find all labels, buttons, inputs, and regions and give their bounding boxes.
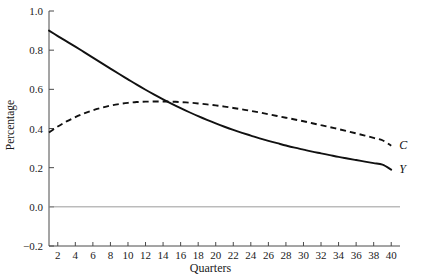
- x-tick-label: 22: [228, 250, 239, 261]
- x-tick-label: 10: [122, 250, 133, 261]
- x-tick-label: 40: [386, 250, 397, 261]
- plot-canvas: [0, 0, 421, 278]
- x-tick-label: 24: [245, 250, 256, 261]
- x-tick-label: 26: [263, 250, 274, 261]
- y-tick-label: 0.8: [2, 45, 43, 56]
- x-axis-title: Quarters: [0, 261, 421, 276]
- x-tick-label: 6: [90, 250, 96, 261]
- y-tick-label: −0.2: [2, 241, 43, 252]
- x-tick-label: 32: [316, 250, 327, 261]
- x-tick-label: 28: [280, 250, 291, 261]
- series-line-y: [49, 31, 391, 170]
- x-tick-label: 16: [175, 250, 186, 261]
- series-line-c: [49, 101, 391, 145]
- y-tick-label: 0.2: [2, 162, 43, 173]
- x-tick-label: 2: [55, 250, 61, 261]
- chart-figure: −0.20.00.20.40.60.81.0 24681012141618202…: [0, 0, 421, 278]
- series-label-c: C: [399, 138, 407, 153]
- x-tick-label: 20: [210, 250, 221, 261]
- x-tick-label: 34: [333, 250, 344, 261]
- x-tick-label: 18: [193, 250, 204, 261]
- x-tick-label: 36: [351, 250, 362, 261]
- x-tick-label: 4: [73, 250, 79, 261]
- x-tick-label: 30: [298, 250, 309, 261]
- series-label-y: Y: [399, 162, 406, 177]
- y-axis-title: Percentage: [4, 93, 16, 157]
- x-tick-label: 38: [368, 250, 379, 261]
- y-tick-label: 0.0: [2, 201, 43, 212]
- x-tick-label: 14: [158, 250, 169, 261]
- x-tick-label: 8: [108, 250, 114, 261]
- x-tick-marks: [58, 242, 391, 246]
- y-tick-label: 1.0: [2, 6, 43, 17]
- axis-group: [49, 11, 400, 246]
- x-tick-label: 12: [140, 250, 151, 261]
